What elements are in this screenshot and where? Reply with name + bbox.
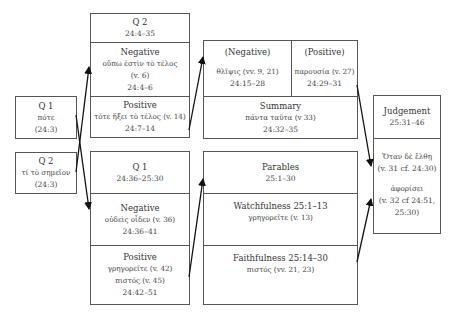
arrow-q2-to-q2-section	[76, 67, 89, 172]
arrow-positive-to-discourse	[189, 57, 203, 130]
arrow-discourse-to-judgement	[357, 85, 371, 166]
arrow-q1-to-q1-section	[76, 115, 89, 209]
arrows-layer	[0, 0, 453, 312]
arrow-positive-to-parables	[189, 179, 203, 277]
arrow-parables-to-judgement	[357, 199, 371, 262]
